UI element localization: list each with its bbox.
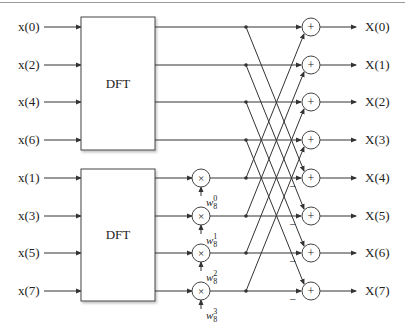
output-label: X(0) [365, 19, 390, 34]
input-label: x(1) [18, 170, 40, 185]
minus-sign: – [289, 217, 296, 229]
input-label: x(5) [18, 245, 40, 260]
add-symbol: + [308, 284, 315, 298]
input-label: x(4) [18, 94, 40, 109]
multiply-symbol: × [198, 210, 204, 222]
add-symbol: + [308, 209, 315, 223]
add-symbol: + [308, 58, 315, 72]
multiply-symbol: × [198, 285, 204, 297]
twiddle-label: w08 [206, 194, 217, 211]
add-symbol: + [308, 95, 315, 109]
output-label: X(1) [365, 57, 390, 72]
minus-sign: – [289, 292, 296, 304]
dft-label-odd: DFT [106, 227, 131, 242]
add-symbol: + [308, 171, 315, 185]
multiply-symbol: × [198, 172, 204, 184]
input-label: x(7) [18, 283, 40, 298]
minus-sign: – [289, 179, 296, 191]
twiddle-label: w28 [206, 269, 217, 286]
output-label: X(4) [365, 170, 390, 185]
multiply-symbol: × [198, 247, 204, 259]
input-label: x(0) [18, 19, 40, 34]
dft-label-even: DFT [106, 76, 131, 91]
input-label: x(2) [18, 57, 40, 72]
fft-diagram: x(0) x(2) x(4) x(6) x(1) x(3) x(5) x(7) … [0, 0, 405, 336]
output-label: X(7) [365, 283, 390, 298]
input-label: x(3) [18, 208, 40, 223]
minus-sign: – [289, 254, 296, 266]
add-symbol: + [308, 133, 315, 147]
input-label: x(6) [18, 132, 40, 147]
twiddle-label: w38 [206, 307, 217, 324]
output-label: X(3) [365, 132, 390, 147]
output-label: X(5) [365, 208, 390, 223]
add-symbol: + [308, 20, 315, 34]
output-label: X(2) [365, 94, 390, 109]
output-label: X(6) [365, 245, 390, 260]
add-symbol: + [308, 246, 315, 260]
